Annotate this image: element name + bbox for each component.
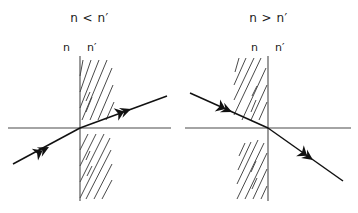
- panel-left-drawing: [0, 0, 179, 213]
- refraction-figure: n < n′ n n′: [0, 0, 358, 213]
- panel-left-refracted-arrowhead: [114, 103, 134, 121]
- panel-right-incident-arrowhead: [215, 99, 235, 118]
- panel-right-drawing: [179, 0, 358, 213]
- panel-n-greater-than-nprime: n > n′ n n′: [179, 0, 358, 213]
- panel-right-refracted-arrowhead: [296, 145, 317, 165]
- panel-n-less-than-nprime: n < n′ n n′: [0, 0, 179, 213]
- panel-left-hatching: [80, 60, 114, 199]
- panel-left-incident-ray: [13, 128, 80, 164]
